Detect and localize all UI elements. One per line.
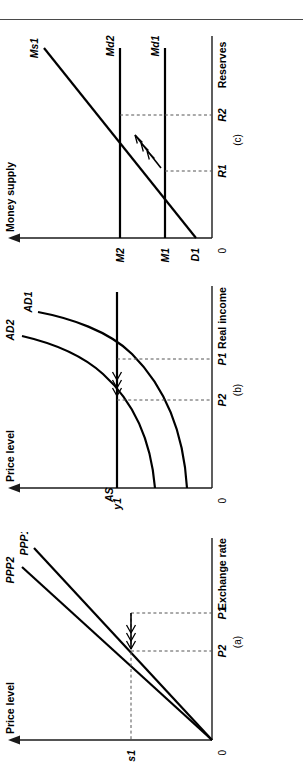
panel-c-caption: (c) bbox=[232, 134, 243, 146]
panel-c-y-axis-title: Money supply bbox=[4, 162, 16, 232]
panel-a-y-axis bbox=[8, 736, 212, 745]
panel-c-xtick-r1: R1 bbox=[216, 164, 228, 178]
panel-a-x-axis-title: Exchange rate bbox=[216, 538, 228, 610]
panel-c-money-supply: Ms1 Md2 Md1 D1 M1 M2 R1 R2 0 Money suppl… bbox=[0, 30, 244, 280]
panel-b-xtick-p1: P1 bbox=[216, 352, 228, 365]
panel-c-x-axis-title: Reserves bbox=[216, 41, 228, 88]
panel-a-xtick-p2: P2 bbox=[216, 644, 228, 657]
panel-a-svg: PPP1 PPP2 s1 P1 P2 0 Price level Exchang… bbox=[0, 532, 244, 782]
panel-b-origin-label: 0 bbox=[217, 498, 228, 504]
panel-a-ytick-s1: s1 bbox=[125, 750, 137, 762]
panel-b-x-axis-title: Real income bbox=[216, 287, 228, 349]
panel-b-svg: AS AD1 AD2 y1 P1 P2 0 Price level Real i… bbox=[0, 280, 244, 530]
panel-b-label-ad2: AD2 bbox=[4, 319, 16, 341]
panel-b-caption: (b) bbox=[232, 384, 243, 396]
header-divider-rule bbox=[0, 19, 303, 20]
panel-b-xtick-p2: P2 bbox=[216, 393, 228, 406]
panel-b-ad-as: AS AD1 AD2 y1 P1 P2 0 Price level Real i… bbox=[0, 280, 244, 530]
panel-c-svg: Ms1 Md2 Md1 D1 M1 M2 R1 R2 0 Money suppl… bbox=[0, 30, 244, 280]
panel-a-ppp: PPP1 PPP2 s1 P1 P2 0 Price level Exchang… bbox=[0, 532, 244, 782]
panel-b-label-ad1: AD1 bbox=[22, 291, 34, 313]
figure-page: Ms1 Md2 Md1 D1 M1 M2 R1 R2 0 Money suppl… bbox=[0, 0, 303, 782]
panel-b-y-axis-title: Price level bbox=[4, 430, 16, 482]
panel-a-caption: (a) bbox=[232, 636, 243, 648]
panel-c-label-md2: Md2 bbox=[104, 35, 116, 56]
panel-c-xtick-r2: R2 bbox=[216, 108, 228, 122]
panel-c-ytick-d1: D1 bbox=[189, 248, 201, 262]
panel-a-y-axis-title: Price level bbox=[4, 682, 16, 734]
panel-a-origin-label: 0 bbox=[217, 750, 228, 756]
panel-c-origin-label: 0 bbox=[217, 248, 228, 254]
panel-c-y-axis bbox=[8, 234, 212, 243]
panel-c-ytick-m2: M2 bbox=[114, 248, 126, 263]
panel-a-label-ppp2: PPP2 bbox=[4, 556, 16, 583]
panel-c-ytick-m1: M1 bbox=[159, 248, 171, 263]
panel-a-shift-arrow bbox=[127, 613, 136, 649]
panel-c-shift-arrow bbox=[135, 135, 161, 168]
panel-a-label-ppp1: PPP1 bbox=[18, 532, 30, 555]
panel-a-curve-ppp1 bbox=[34, 548, 212, 740]
panel-b-ytick-y1: y1 bbox=[111, 498, 123, 511]
panel-c-label-md1: Md1 bbox=[149, 35, 161, 56]
panel-b-shift-arrow bbox=[113, 362, 122, 396]
panel-a-curve-ppp2 bbox=[22, 567, 212, 740]
panel-c-label-ms1: Ms1 bbox=[28, 38, 40, 59]
